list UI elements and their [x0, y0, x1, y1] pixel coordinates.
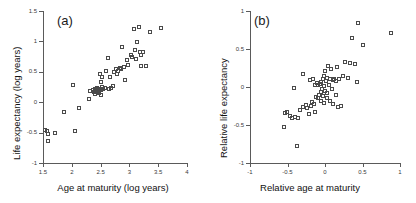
panel-a-x-tick	[187, 163, 188, 167]
panel-b-x-tick	[400, 163, 401, 167]
data-point	[341, 74, 345, 78]
panel-a-y-tick	[39, 133, 43, 134]
data-point	[355, 80, 359, 84]
panel-a-x-tick	[158, 163, 159, 167]
panel-a-x-tick-label: 2.5	[89, 169, 113, 175]
data-point	[137, 25, 141, 29]
panel-b-y-tick	[246, 49, 250, 50]
panel-a-y-tick-label: -1	[15, 160, 37, 166]
data-point	[322, 101, 326, 105]
panel-a-x-tick-label: 4	[175, 169, 199, 175]
data-point	[106, 56, 110, 60]
data-point	[135, 40, 139, 44]
data-point	[120, 45, 124, 49]
data-point	[389, 31, 393, 35]
data-point	[329, 67, 333, 71]
data-point	[330, 87, 334, 91]
data-point	[46, 132, 50, 136]
panel-a: (a) Life expectancy (log years) Age at m…	[0, 0, 208, 203]
data-point	[77, 106, 81, 110]
panel-b-x-tick-label: -0.5	[276, 169, 300, 175]
data-point	[335, 65, 339, 69]
panel-b-x-tick	[288, 163, 289, 167]
data-point	[126, 63, 130, 67]
data-point	[100, 75, 104, 79]
data-point	[322, 84, 326, 88]
panel-b-y-tick	[246, 87, 250, 88]
data-point	[356, 21, 360, 25]
panel-b-x-tick-label: 1	[388, 169, 412, 175]
panel-b-y-tick	[246, 125, 250, 126]
data-point	[111, 84, 115, 88]
data-point	[325, 91, 329, 95]
data-point	[62, 110, 66, 114]
data-point	[125, 58, 129, 62]
data-point	[141, 50, 145, 54]
panel-a-y-tick	[39, 11, 43, 12]
data-point	[73, 129, 77, 133]
data-point	[123, 78, 127, 82]
data-point	[307, 112, 311, 116]
data-point	[361, 43, 365, 47]
figure-container: (a) Life expectancy (log years) Age at m…	[0, 0, 416, 203]
panel-a-y-axis-title: Life expectancy (log years)	[11, 10, 22, 160]
data-point	[339, 104, 343, 108]
panel-b: (b) Relative life expectancy Relative ag…	[208, 0, 416, 203]
panel-b-x-tick	[363, 163, 364, 167]
data-point	[133, 48, 137, 52]
panel-b-x-tick-label: 0	[313, 169, 337, 175]
data-point	[346, 76, 350, 80]
data-point	[71, 83, 75, 87]
data-point	[301, 72, 305, 76]
panel-b-x-tick	[250, 163, 251, 167]
data-point	[323, 69, 327, 73]
panel-b-x-tick-label: -1	[238, 169, 262, 175]
panel-a-y-tick-label: 0.5	[15, 68, 37, 74]
data-point	[331, 102, 335, 106]
data-point	[115, 72, 119, 76]
data-point	[99, 93, 103, 97]
data-point	[353, 62, 357, 66]
data-point	[159, 26, 163, 30]
data-point	[313, 110, 317, 114]
data-point	[148, 30, 152, 34]
panel-a-y-tick-label: 1.5	[15, 8, 37, 14]
data-point	[350, 36, 354, 40]
data-point	[53, 131, 57, 135]
panel-b-y-tick	[246, 11, 250, 12]
panel-a-y-tick-label: 0	[15, 99, 37, 105]
panel-b-y-tick-label: -1	[222, 160, 244, 166]
panel-b-y-axis-line	[250, 11, 251, 163]
panel-a-x-tick	[129, 163, 130, 167]
panel-a-x-tick-label: 2	[60, 169, 84, 175]
data-point	[104, 69, 108, 73]
panel-a-plot-area: -1-0.500.511.51.522.533.54	[43, 11, 187, 163]
data-point	[334, 93, 338, 97]
data-point	[87, 97, 91, 101]
panel-b-y-tick-label: 0.5	[222, 46, 244, 52]
data-point	[282, 125, 286, 129]
panel-b-y-tick-label: 1	[222, 8, 244, 14]
data-point	[312, 102, 316, 106]
panel-a-x-tick	[72, 163, 73, 167]
panel-b-x-axis-title: Relative age at maturity	[220, 182, 400, 193]
data-point	[122, 65, 126, 69]
panel-b-y-tick-label: -0.5	[222, 122, 244, 128]
panel-a-x-tick-label: 3	[117, 169, 141, 175]
panel-a-x-axis-title: Age at maturity (log years)	[23, 182, 203, 193]
data-point	[46, 139, 50, 143]
panel-a-y-tick-label: 1	[15, 38, 37, 44]
data-point	[134, 57, 138, 61]
data-point	[343, 60, 347, 64]
panel-a-y-tick-label: -0.5	[15, 129, 37, 135]
data-point	[296, 116, 300, 120]
panel-a-y-tick	[39, 72, 43, 73]
data-point	[295, 144, 299, 148]
panel-b-plot-area: -1-0.500.51-1-0.500.51	[250, 11, 400, 163]
data-point	[311, 77, 315, 81]
data-point	[292, 86, 296, 90]
panel-b-y-tick-label: 0	[222, 84, 244, 90]
panel-b-x-tick	[325, 163, 326, 167]
data-point	[348, 61, 352, 65]
panel-a-x-tick	[101, 163, 102, 167]
